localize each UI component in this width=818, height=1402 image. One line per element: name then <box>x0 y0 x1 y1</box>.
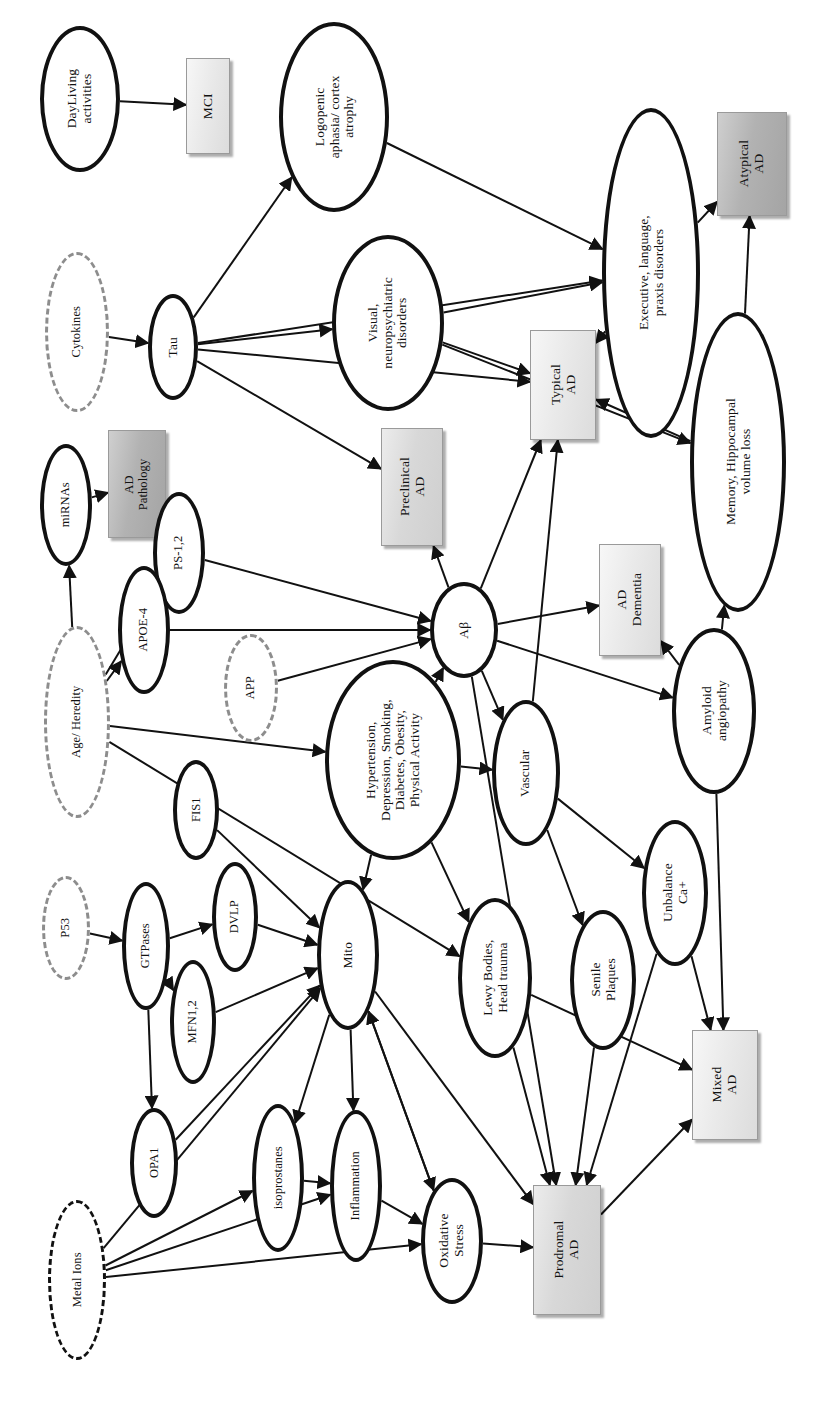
node-hypertension: Hypertension, Depression, Smoking, Diabe… <box>325 660 461 860</box>
node-label-mixed: Mixed AD <box>710 1067 739 1103</box>
edge-hypertension-to-lewy <box>432 842 469 921</box>
node-label-atypical: Atypical AD <box>737 140 766 187</box>
edge-dayliving-to-mci <box>120 101 186 105</box>
node-label-dayliving: DayLiving activities <box>65 69 94 128</box>
edge-executive-to-typical <box>596 331 605 343</box>
node-oxidative: Oxidative Stress <box>421 1178 483 1304</box>
node-label-prodromal: Prodromal AD <box>552 1221 581 1279</box>
edge-inflammation-to-oxidative <box>382 1201 423 1224</box>
node-label-apoe4: APOE-4 <box>137 608 151 652</box>
edge-executive-to-atypical <box>698 202 717 223</box>
node-label-tau: Tau <box>166 337 181 357</box>
edge-metalions-to-isoprostanes <box>106 1191 253 1266</box>
node-label-fis1: FIS1 <box>189 798 203 823</box>
node-logopenic: Logopenic aphasia/ cortex atrophy <box>279 22 389 212</box>
edge-amyloid-to-mixed <box>716 794 723 1030</box>
edge-ageheredity-to-hypertension <box>110 726 325 752</box>
node-mito: Mito <box>317 880 379 1030</box>
edge-cytokines-to-tau <box>109 337 148 343</box>
edge-isoprostanes-to-inflammation <box>304 1181 330 1184</box>
node-label-memory: Memory, Hippocampal volume loss <box>723 399 752 526</box>
node-unbalance: Unbalance Ca+ <box>642 820 708 966</box>
node-fis1: FIS1 <box>173 760 219 860</box>
edge-mfn12-to-mito <box>216 968 318 1012</box>
node-label-ab: Aβ <box>457 622 472 639</box>
node-ageheredity: Age/ Heredity <box>44 626 110 818</box>
node-label-mfn12: MFN1,2 <box>186 1000 200 1043</box>
node-vascular: Vascular <box>492 700 560 846</box>
node-label-p53: P53 <box>59 918 73 938</box>
node-senile: Senile Plaques <box>570 910 636 1050</box>
node-label-opa1: OPA1 <box>147 1148 161 1179</box>
edge-mirnas-to-adpathology <box>92 493 108 498</box>
node-label-isoprostanes: isoprostanes <box>271 1147 285 1210</box>
node-label-ageheredity: Age/ Heredity <box>70 686 84 758</box>
node-label-lewy: Lewy Bodies, Head trauma <box>480 940 509 1016</box>
edge-ps12-to-ab <box>205 560 431 621</box>
node-label-mirnas: miRNAs <box>59 482 73 527</box>
edge-lewy-to-prodromal <box>513 1047 549 1185</box>
node-label-app: APP <box>244 676 258 699</box>
node-label-amyloid: Amyloid angiopathy <box>699 681 728 742</box>
edge-tau-to-visual <box>198 329 332 344</box>
node-amyloid: Amyloid angiopathy <box>672 628 756 794</box>
edge-gtpases-to-mfn12 <box>167 979 174 990</box>
node-label-adpathology: AD Pathology <box>123 458 150 510</box>
node-label-mci: MCI <box>201 93 216 119</box>
edge-hypertension-to-vascular <box>461 767 492 770</box>
edge-hypertension-to-mito <box>363 855 371 890</box>
node-mfn12: MFN1,2 <box>170 960 216 1084</box>
node-typical: Typical AD <box>530 330 596 440</box>
node-label-executive: Executive, language, praxis disorders <box>636 216 665 331</box>
edge-visual-to-typical <box>443 342 530 373</box>
node-executive: Executive, language, praxis disorders <box>602 108 700 438</box>
node-isoprostanes: isoprostanes <box>252 1104 304 1252</box>
node-label-oxidative: Oxidative Stress <box>437 1214 466 1268</box>
node-mci: MCI <box>186 58 230 154</box>
node-app: APP <box>224 634 278 742</box>
node-label-logopenic: Logopenic aphasia/ cortex atrophy <box>312 76 356 159</box>
edge-mito-to-isoprostanes <box>295 1015 329 1123</box>
node-atypical: Atypical AD <box>717 112 787 216</box>
node-label-dvlp: DVLP <box>228 900 242 933</box>
node-dvlp: DVLP <box>212 862 258 972</box>
edge-hypertension-to-ab <box>436 668 444 682</box>
edge-visual-to-executive <box>444 282 602 312</box>
edge-ab-to-addementia <box>498 606 599 624</box>
edge-amyloid-to-memory <box>722 606 724 630</box>
node-mixed: Mixed AD <box>692 1030 758 1140</box>
node-ab: Aβ <box>430 582 498 678</box>
edge-gtpases-to-opa1 <box>148 1010 152 1108</box>
node-preclinical: Preclinical AD <box>381 428 443 546</box>
edge-mito-to-inflammation <box>351 1030 354 1111</box>
node-label-preclinical: Preclinical AD <box>397 458 426 517</box>
node-tau: Tau <box>148 294 198 400</box>
edge-metalions-to-oxidative <box>106 1244 421 1277</box>
node-apoe4: APOE-4 <box>118 566 170 694</box>
node-lewy: Lewy Bodies, Head trauma <box>458 898 532 1058</box>
node-label-gtpases: GTPases <box>139 923 153 968</box>
edge-amyloid-to-addementia <box>661 641 679 665</box>
edge-dvlp-to-mito <box>258 925 318 945</box>
node-gtpases: GTPases <box>122 882 170 1010</box>
edge-logopenic-to-executive <box>387 143 603 249</box>
edge-memory-to-atypical <box>745 216 750 314</box>
node-mirnas: miRNAs <box>40 444 92 566</box>
node-addementia: AD Dementia <box>599 544 661 656</box>
node-label-typical: Typical AD <box>548 365 577 406</box>
node-label-cytokines: Cytokines <box>70 306 84 358</box>
edge-vascular-to-senile <box>547 830 582 925</box>
node-label-hypertension: Hypertension, Depression, Smoking, Diabe… <box>364 699 422 821</box>
node-visual: Visual, neuropsychiatric disorders <box>332 235 444 411</box>
node-label-visual: Visual, neuropsychiatric disorders <box>366 277 410 369</box>
edge-gtpases-to-dvlp <box>170 924 212 938</box>
node-label-addementia: AD Dementia <box>615 573 644 626</box>
node-label-mito: Mito <box>341 942 356 969</box>
node-label-ps12: PS-1,2 <box>172 536 186 570</box>
edge-ab-to-typical <box>481 440 541 588</box>
node-label-vascular: Vascular <box>519 749 534 796</box>
node-metalions: Metal Ions <box>48 1200 106 1360</box>
node-label-senile: Senile Plaques <box>588 959 617 1002</box>
edge-ab-to-vascular <box>482 671 503 720</box>
edge-senile-to-prodromal <box>576 1047 594 1185</box>
